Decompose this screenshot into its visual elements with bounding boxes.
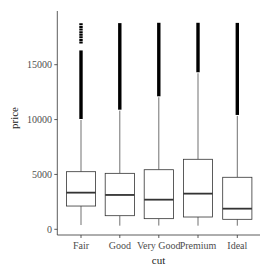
x-tick-label: Good — [109, 240, 131, 251]
y-axis-ticks: 050001000015000 — [27, 59, 57, 235]
y-tick-label: 0 — [47, 224, 52, 235]
x-tick-label: Very Good — [137, 240, 181, 251]
axes: 050001000015000 FairGoodVery GoodPremium… — [8, 11, 260, 266]
box-fair — [66, 23, 95, 225]
x-tick-label: Premium — [180, 240, 217, 251]
x-tick-label: Fair — [73, 240, 90, 251]
box-good — [105, 23, 134, 226]
y-axis-title: price — [8, 107, 20, 129]
x-tick-label: Ideal — [227, 240, 247, 251]
iqr-box — [144, 170, 173, 219]
plot-area — [66, 23, 252, 226]
box-premium — [183, 23, 212, 226]
y-tick-label: 15000 — [27, 59, 52, 70]
boxplot-chart: 050001000015000 FairGoodVery GoodPremium… — [0, 0, 271, 273]
x-axis-title: cut — [152, 254, 165, 266]
box-very-good — [144, 23, 173, 226]
iqr-box — [66, 172, 95, 206]
box-ideal — [223, 23, 252, 226]
x-axis-ticks: FairGoodVery GoodPremiumIdeal — [73, 235, 248, 251]
iqr-box — [183, 159, 212, 217]
y-tick-label: 5000 — [32, 169, 52, 180]
y-tick-label: 10000 — [27, 114, 52, 125]
iqr-box — [223, 177, 252, 219]
